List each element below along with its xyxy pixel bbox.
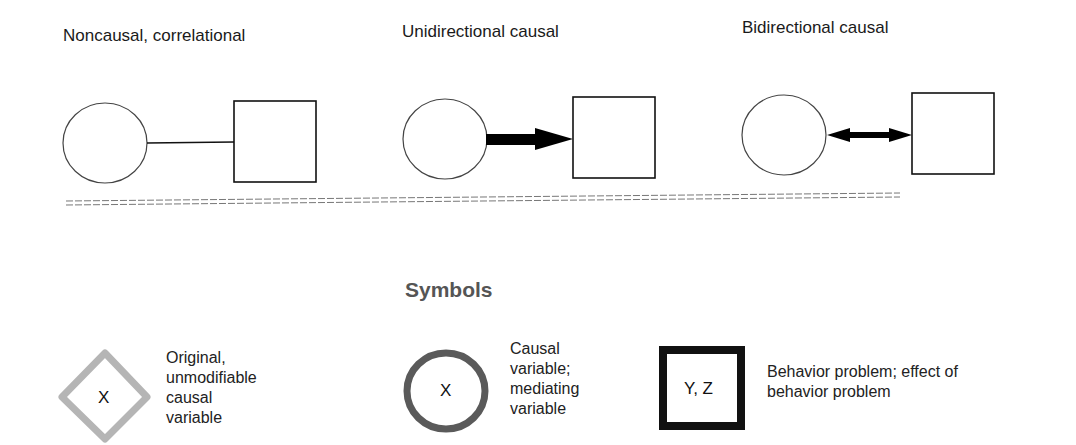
correlation-line [147, 142, 234, 143]
behavior-square [573, 97, 655, 178]
legend-line: mediating [510, 379, 579, 399]
bidirectional-diagram [742, 93, 994, 175]
symbols-heading: Symbols [405, 278, 493, 302]
legend-description-behavior-problem: Behavior problem; effect of behavior pro… [767, 362, 958, 402]
square-glyph: Y, Z [684, 379, 713, 399]
arrow-head-right [889, 128, 912, 142]
legend-description-original-causal: Original, unmodifiable causal variable [166, 348, 257, 428]
variable-circle [63, 103, 147, 183]
legend-line: variable [510, 399, 579, 419]
arrow-shaft [486, 134, 538, 145]
arrow-head [535, 128, 573, 150]
legend-line: unmodifiable [166, 368, 257, 388]
diamond-glyph: X [98, 388, 109, 408]
circle-glyph: X [440, 381, 451, 401]
arrow-head-left [827, 128, 850, 142]
legend-line: causal [166, 388, 257, 408]
variable-circle [742, 95, 826, 175]
legend-description-causal-mediating: Causal variable; mediating variable [510, 339, 579, 419]
legend-line: behavior problem [767, 382, 958, 402]
legend-line: variable [166, 408, 257, 428]
variable-circle [403, 99, 487, 179]
double-dashed-separator [66, 193, 900, 205]
behavior-square [912, 93, 994, 174]
legend-line: variable; [510, 359, 579, 379]
legend-line: Original, [166, 348, 257, 368]
noncausal-diagram [63, 101, 316, 183]
legend-line: Behavior problem; effect of [767, 362, 958, 382]
behavior-square [234, 101, 316, 182]
legend-line: Causal [510, 339, 579, 359]
unidirectional-diagram [403, 97, 655, 179]
